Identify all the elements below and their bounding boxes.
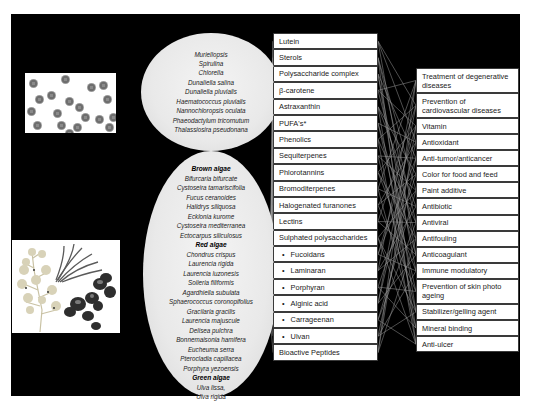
- application-box: Anticoagulant: [416, 247, 519, 263]
- species-name: Dunaliella pluvialis: [185, 87, 237, 96]
- compound-box: Lutein: [273, 33, 378, 49]
- algae-cell-icon: [95, 115, 104, 124]
- algae-cell-icon: [65, 129, 74, 133]
- species-name: Eucheuma serra: [188, 345, 234, 355]
- application-label: Mineral binding: [422, 324, 472, 333]
- compound-box: Sulphated polysaccharides: [273, 230, 378, 246]
- species-name: Cystoseira tamariscifolia: [177, 183, 245, 193]
- algae-cell-icon: [99, 81, 108, 90]
- compound-box: •Ulvan: [273, 328, 378, 344]
- application-box: Mineral binding: [416, 320, 519, 336]
- algae-cell-icon: [47, 91, 56, 100]
- species-name: Cystoseira mediterranea: [177, 221, 246, 231]
- application-box: Anti-tumor/anticancer: [416, 150, 519, 166]
- application-box: Prevention of skin photo ageing: [416, 279, 519, 304]
- bullet-icon: •: [282, 283, 285, 292]
- compound-label: Fucoidans: [291, 250, 325, 259]
- compound-label: Carrageenan: [291, 315, 334, 324]
- species-name: Dunaliella salina: [188, 78, 234, 87]
- compound-label: PUFA's*: [279, 119, 306, 128]
- group-label-red-algae: Red algae: [195, 240, 226, 250]
- compound-label: Bioactive Peptides: [279, 348, 340, 357]
- application-label: Anti-ulcer: [422, 340, 453, 349]
- compound-label: Astraxanthin: [279, 102, 320, 111]
- compound-box: Sterols: [273, 49, 378, 65]
- species-name: Ecklonia kurome: [188, 212, 235, 222]
- species-name: Gracilaria gracilis: [187, 307, 235, 317]
- species-name: Ulva rigida: [196, 392, 226, 402]
- bullet-icon: •: [282, 266, 285, 275]
- species-name: Chlorella: [199, 68, 224, 77]
- application-box: Stabilizer/gelling agent: [416, 304, 519, 320]
- algae-cell-icon: [57, 121, 66, 130]
- compound-box: Lectins: [273, 213, 378, 229]
- compound-box: Bromoditerpenes: [273, 181, 378, 197]
- application-box: Anti-ulcer: [416, 336, 519, 352]
- algae-cell-icon: [105, 123, 114, 132]
- application-label: Vitamin: [422, 122, 447, 131]
- compound-box: •Laminaran: [273, 262, 378, 278]
- compound-box: PUFA's*: [273, 115, 378, 131]
- species-name: Laurencia majuscule: [182, 316, 240, 326]
- application-box: Color for food and feed: [416, 166, 519, 182]
- species-name: Phaeodactylum tricornutum: [173, 116, 250, 125]
- compound-box: Phenolics: [273, 131, 378, 147]
- compound-box: •Fucoidans: [273, 246, 378, 262]
- species-name: Haematococcus pluvialis: [176, 97, 245, 106]
- species-name: Ectocarpus siliculosus: [180, 231, 242, 241]
- application-label: Color for food and feed: [422, 170, 498, 179]
- application-box: Paint additive: [416, 182, 519, 198]
- species-name: Laurencia rigida: [189, 259, 234, 269]
- applications-column: Treatment of degenerative diseasesPreven…: [416, 68, 519, 352]
- microalgae-species-ellipse: MuriellopsisSpirulinaChlorellaDunaliella…: [141, 33, 281, 151]
- species-name: Agardhiella subulata: [182, 288, 239, 298]
- application-box: Antifouling: [416, 231, 519, 247]
- algae-cell-icon: [53, 109, 62, 118]
- seaweed-illustration-image: [12, 240, 120, 333]
- species-name: Fucus ceranoides: [186, 193, 236, 203]
- bullet-icon: •: [282, 315, 285, 324]
- algae-cell-icon: [33, 121, 42, 130]
- compound-label: Laminaran: [291, 266, 326, 275]
- species-name: Chondrus crispus: [187, 250, 236, 260]
- application-box: Immune modulatory: [416, 263, 519, 279]
- compound-label: Phlorotannins: [279, 168, 324, 177]
- algae-cell-icon: [73, 123, 82, 132]
- bullet-icon: •: [282, 250, 285, 259]
- species-name: Spirulina: [199, 59, 224, 68]
- compound-box: Halogenated furanones: [273, 197, 378, 213]
- compound-box: •Porphyran: [273, 279, 378, 295]
- algae-cell-icon: [27, 107, 36, 116]
- application-label: Immune modulatory: [422, 266, 487, 275]
- compound-box: Phlorotannins: [273, 164, 378, 180]
- compound-label: Halogenated furanones: [279, 201, 356, 210]
- compound-box: •Alginic acid: [273, 295, 378, 311]
- application-box: Vitamin: [416, 118, 519, 134]
- compound-label: Ulvan: [291, 332, 310, 341]
- species-name: Nannochloropsis oculata: [177, 106, 246, 115]
- algae-cell-icon: [75, 103, 84, 112]
- species-name: Thalassiosira pseudonana: [174, 125, 248, 134]
- algae-cell-icon: [35, 95, 44, 104]
- application-box: Antibiotic: [416, 198, 519, 214]
- group-label-green-algae: Green algae: [192, 373, 230, 383]
- compound-label: Alginic acid: [291, 299, 328, 308]
- species-name: Muriellopsis: [194, 50, 227, 59]
- compounds-column: LuteinSterolsPolysaccharide complexβ-car…: [273, 33, 378, 361]
- compound-label: Lutein: [279, 37, 299, 46]
- compound-box: Astraxanthin: [273, 99, 378, 115]
- application-label: Prevention of skin photo ageing: [422, 282, 513, 300]
- species-name: Bonnemaisonia hamifera: [176, 335, 246, 345]
- compound-label: Porphyran: [291, 283, 325, 292]
- algae-cell-icon: [109, 113, 116, 122]
- application-box: Prevention of cardiovascular diseases: [416, 93, 519, 118]
- compound-label: Phenolics: [279, 135, 311, 144]
- algae-cell-icon: [65, 97, 74, 106]
- application-label: Antiviral: [422, 218, 448, 227]
- species-name: Sphaerococcus coronopifolius: [169, 297, 253, 307]
- application-label: Antibiotic: [422, 202, 452, 211]
- compound-label: Sterols: [279, 53, 302, 62]
- species-name: Solieria filiformis: [188, 278, 234, 288]
- application-box: Treatment of degenerative diseases: [416, 68, 519, 93]
- species-name: Delisea pulchra: [189, 326, 232, 336]
